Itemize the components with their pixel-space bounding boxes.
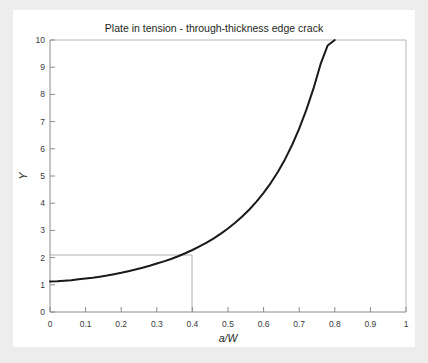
data-curve-y-vs-aw	[50, 40, 335, 282]
plot-frame	[50, 40, 406, 312]
x-tick-label-9: 0.9	[364, 319, 376, 329]
x-tick-label-1: 0.1	[80, 319, 92, 329]
y-tick-label-1: 1	[40, 280, 45, 290]
y-tick-label-3: 3	[40, 225, 45, 235]
x-tick-label-2: 0.2	[115, 319, 127, 329]
x-tick-label-8: 0.8	[329, 319, 341, 329]
y-tick-label-2: 2	[40, 253, 45, 263]
y-axis-ticks: 0 1 2 3 4 5 6 7 8 9 10	[36, 35, 55, 317]
chart-card: Plate in tension - through-thickness edg…	[13, 10, 415, 347]
y-tick-label-7: 7	[40, 117, 45, 127]
x-tick-label-6: 0.6	[258, 319, 270, 329]
x-axis-label: a/W	[219, 332, 239, 344]
y-tick-label-9: 9	[40, 62, 45, 72]
x-tick-label-5: 0.5	[222, 319, 234, 329]
x-tick-label-4: 0.4	[186, 319, 198, 329]
y-tick-label-0: 0	[40, 307, 45, 317]
y-tick-label-8: 8	[40, 89, 45, 99]
x-tick-label-0: 0	[48, 319, 53, 329]
x-axis-ticks: 0 0.1 0.2 0.3 0.4 0.5 0.6 0.7 0.8 0.9 1	[48, 307, 409, 329]
chart-plot: Plate in tension - through-thickness edg…	[13, 10, 415, 347]
x-tick-label-3: 0.3	[151, 319, 163, 329]
y-tick-label-4: 4	[40, 198, 45, 208]
x-tick-label-10: 1	[404, 319, 409, 329]
plot-axes	[50, 40, 406, 312]
x-tick-label-7: 0.7	[293, 319, 305, 329]
construction-lines	[50, 255, 192, 312]
y-tick-label-6: 6	[40, 144, 45, 154]
chart-title: Plate in tension - through-thickness edg…	[105, 22, 324, 34]
y-tick-label-5: 5	[40, 171, 45, 181]
y-tick-label-10: 10	[36, 35, 46, 45]
y-axis-label: Y	[17, 172, 29, 180]
